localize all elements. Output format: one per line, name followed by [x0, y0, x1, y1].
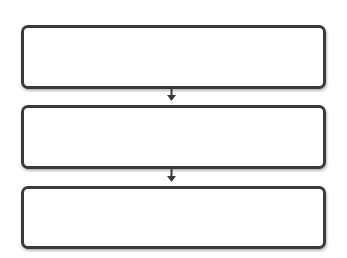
- down-arrow-icon: [166, 88, 177, 102]
- flow-step-1-box: [21, 25, 326, 89]
- flow-step-2-box: [21, 105, 326, 169]
- flow-step-3-box: [21, 186, 326, 249]
- down-arrow-icon: [166, 168, 177, 183]
